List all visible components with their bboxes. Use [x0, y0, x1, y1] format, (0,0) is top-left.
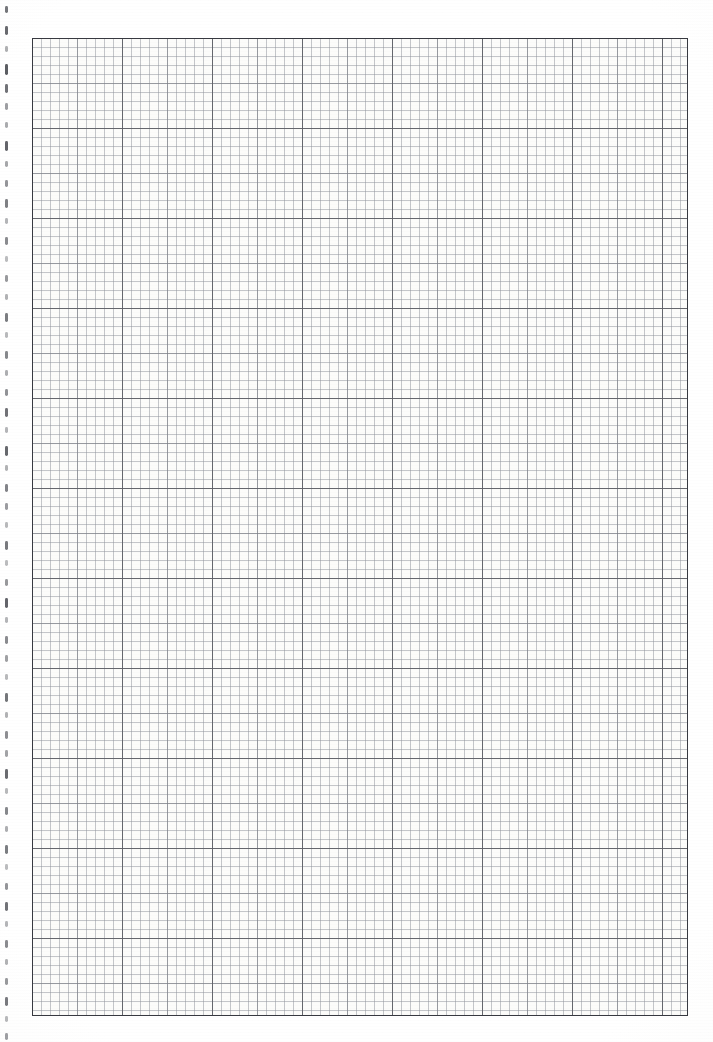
binding-hole-mark: [5, 712, 8, 718]
binding-hole-mark: [5, 617, 8, 623]
spiral-binding-strip: [0, 0, 16, 1042]
binding-hole-mark: [5, 370, 8, 376]
binding-hole-mark: [5, 180, 8, 187]
binding-hole-mark: [5, 84, 8, 93]
binding-hole-mark: [5, 389, 8, 396]
binding-hole-mark: [5, 959, 8, 965]
binding-hole-mark: [5, 351, 8, 359]
binding-hole-mark: [5, 446, 8, 456]
binding-hole-mark: [5, 731, 8, 739]
binding-hole-mark: [5, 522, 8, 528]
binding-hole-mark: [5, 655, 8, 662]
binding-hole-mark: [5, 199, 8, 208]
binding-hole-mark: [5, 541, 8, 550]
binding-hole-mark: [5, 636, 8, 644]
binding-hole-mark: [5, 103, 8, 110]
binding-hole-mark: [5, 6, 8, 13]
binding-hole-mark: [5, 294, 8, 300]
binding-hole-mark: [5, 256, 8, 262]
binding-hole-mark: [5, 218, 8, 224]
binding-hole-mark: [5, 408, 8, 417]
binding-hole-mark: [5, 141, 8, 151]
binding-hole-mark: [5, 64, 8, 75]
binding-hole-mark: [5, 427, 8, 433]
binding-hole-mark: [5, 693, 8, 702]
binding-hole-mark: [5, 332, 8, 338]
binding-hole-mark: [5, 503, 8, 510]
binding-hole-mark: [5, 237, 8, 245]
binding-hole-mark: [5, 769, 8, 779]
binding-hole-mark: [5, 275, 8, 282]
binding-hole-mark: [5, 560, 8, 566]
binding-hole-mark: [5, 902, 8, 911]
binding-hole-mark: [5, 313, 8, 322]
binding-hole-mark: [5, 978, 8, 985]
binding-hole-mark: [5, 598, 8, 608]
binding-hole-mark: [5, 750, 8, 757]
binding-hole-mark: [5, 997, 8, 1006]
binding-hole-mark: [5, 845, 8, 854]
binding-hole-mark: [5, 826, 8, 832]
graph-grid: [32, 38, 688, 1016]
binding-hole-mark: [5, 26, 8, 35]
binding-hole-mark: [5, 1016, 8, 1022]
binding-hole-mark: [5, 161, 8, 167]
binding-hole-mark: [5, 883, 8, 890]
binding-hole-mark: [5, 864, 8, 870]
binding-hole-mark: [5, 484, 8, 492]
binding-hole-mark: [5, 940, 8, 948]
binding-hole-mark: [5, 46, 8, 52]
binding-hole-mark: [5, 674, 8, 680]
graph-paper-page: [0, 0, 713, 1042]
binding-hole-mark: [5, 788, 8, 794]
binding-hole-mark: [5, 807, 8, 815]
binding-hole-mark: [5, 1033, 8, 1040]
binding-hole-mark: [5, 122, 8, 128]
binding-hole-mark: [5, 465, 8, 471]
binding-hole-mark: [5, 579, 8, 586]
binding-hole-mark: [5, 921, 8, 927]
